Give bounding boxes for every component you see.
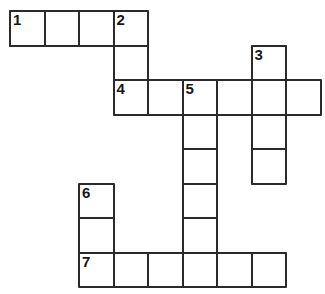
cell-number-3: 3 <box>255 47 263 63</box>
crossword-cell[interactable] <box>182 148 219 185</box>
cell-number-2: 2 <box>117 12 125 28</box>
crossword-cell[interactable] <box>251 148 288 185</box>
cell-number-7: 7 <box>82 254 90 270</box>
crossword-cell[interactable]: 3 <box>251 45 288 82</box>
crossword-grid[interactable]: 1234567 <box>0 0 325 294</box>
crossword-cell[interactable] <box>182 217 219 254</box>
crossword-cell[interactable] <box>216 252 253 289</box>
crossword-cell[interactable] <box>113 252 150 289</box>
crossword-cell[interactable] <box>285 79 322 116</box>
crossword-cell[interactable]: 2 <box>113 10 150 47</box>
cell-number-6: 6 <box>82 185 90 201</box>
crossword-cell[interactable] <box>44 10 81 47</box>
cell-number-1: 1 <box>13 12 21 28</box>
crossword-cell[interactable] <box>147 252 184 289</box>
crossword-cell[interactable]: 1 <box>9 10 46 47</box>
crossword-cell[interactable]: 5 <box>182 79 219 116</box>
crossword-puzzle: 1234567 <box>0 0 325 294</box>
crossword-cell[interactable] <box>182 114 219 151</box>
crossword-cell[interactable]: 4 <box>113 79 150 116</box>
crossword-cell[interactable]: 6 <box>78 183 115 220</box>
crossword-cell[interactable] <box>251 79 288 116</box>
crossword-cell[interactable]: 7 <box>78 252 115 289</box>
cell-number-5: 5 <box>186 81 194 97</box>
crossword-cell[interactable] <box>113 45 150 82</box>
crossword-cell[interactable] <box>216 79 253 116</box>
crossword-cell[interactable] <box>147 79 184 116</box>
crossword-cell[interactable] <box>78 10 115 47</box>
crossword-cell[interactable] <box>251 114 288 151</box>
crossword-cell[interactable] <box>78 217 115 254</box>
crossword-cell[interactable] <box>182 183 219 220</box>
crossword-cell[interactable] <box>182 252 219 289</box>
cell-number-4: 4 <box>117 81 125 97</box>
crossword-cell[interactable] <box>251 252 288 289</box>
